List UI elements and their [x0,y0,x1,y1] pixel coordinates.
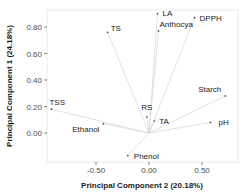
point-label-tss: TSS [49,98,65,107]
point-ethanol [103,123,105,125]
point-label-phenol: Phenol [134,152,159,161]
point-rs [146,116,148,118]
point-label-anthocya: Anthocya [160,20,194,29]
y-tick-label: 0.20 [26,103,42,112]
x-tick-label: -0.50 [87,166,106,175]
point-label-ta: TA [159,117,169,126]
x-axis-title: Principal Component 2 (20.18%) [81,181,203,190]
point-ph [210,122,212,124]
point-la [157,13,159,15]
y-tick-label: 0.80 [26,23,42,32]
y-tick-label: 0.00 [26,129,42,138]
point-ts [107,31,109,33]
y-axis: 0.000.200.400.600.80 [26,23,47,138]
point-ta [153,120,155,122]
point-tss [51,108,53,110]
point-label-starch: Starch [198,85,221,94]
point-label-dpph: DPPH [200,14,222,23]
x-tick-label: 0.50 [194,166,210,175]
x-tick-label: 0.00 [141,166,157,175]
point-label-ph: pH [218,118,228,127]
x-axis: -0.500.000.50 [87,162,210,175]
point-label-rs: RS [141,103,152,112]
point-starch [224,95,226,97]
y-tick-label: 0.60 [26,50,42,59]
pca-biplot-chart: TSLAAnthocyaDPPHTSSEthanolRSTAStarchpHPh… [0,0,246,194]
point-anthocya [158,30,160,32]
point-label-ethanol: Ethanol [72,125,99,134]
point-label-ts: TS [111,24,121,33]
point-phenol [127,155,129,157]
point-label-la: LA [162,9,172,18]
y-tick-label: 0.40 [26,76,42,85]
point-dpph [194,17,196,19]
y-axis-title: Principal Component 1 (24.18%) [5,25,14,147]
